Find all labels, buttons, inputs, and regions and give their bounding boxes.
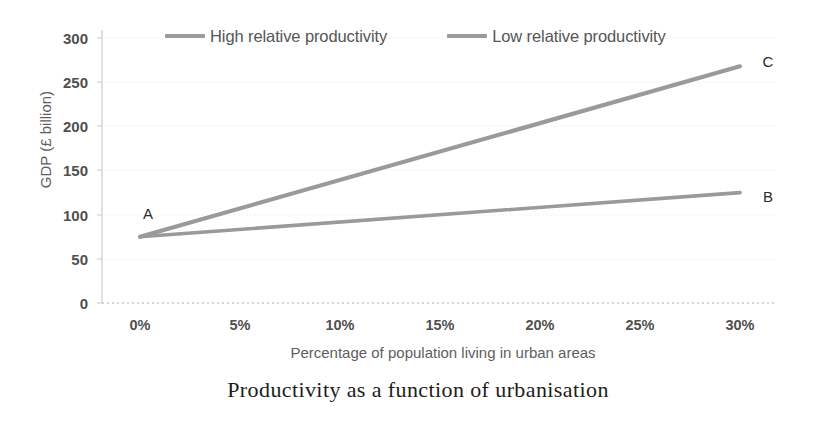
point-label-c: C xyxy=(763,53,774,70)
point-label-b: B xyxy=(763,188,773,205)
x-axis-tick-labels: 0% 5% 10% 15% 20% 25% 30% xyxy=(0,0,836,427)
x-tick-label: 15% xyxy=(410,317,470,333)
x-tick-label: 25% xyxy=(610,317,670,333)
point-label-a: A xyxy=(143,205,153,222)
x-tick-label: 0% xyxy=(110,317,170,333)
x-axis-title: Percentage of population living in urban… xyxy=(118,344,768,361)
x-tick-label: 20% xyxy=(510,317,570,333)
figure-caption: Productivity as a function of urbanisati… xyxy=(0,377,836,403)
x-tick-label: 30% xyxy=(710,317,770,333)
x-tick-label: 5% xyxy=(210,317,270,333)
x-tick-label: 10% xyxy=(310,317,370,333)
chart-figure: High relative productivity Low relative … xyxy=(0,0,836,427)
